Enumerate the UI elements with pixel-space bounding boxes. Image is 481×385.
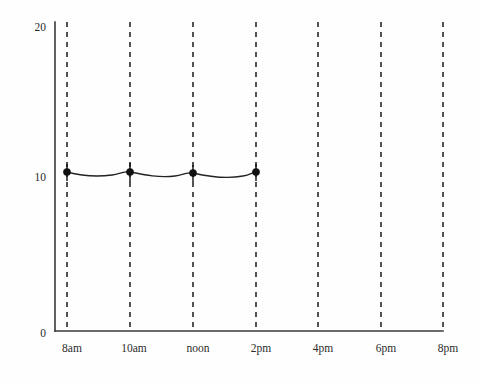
x-tick-label-4pm: 4pm: [313, 342, 334, 355]
y-tick-label-20: 20: [35, 21, 47, 33]
x-tick-label-noon: noon: [187, 342, 210, 354]
data-marker-8am: [63, 168, 70, 175]
line-chart-plot: 20 10 0 8am 10am noon 2pm 4pm 6pm 8pm: [0, 0, 481, 385]
data-marker-2pm: [252, 168, 259, 175]
x-tick-label-2pm: 2pm: [251, 342, 272, 355]
y-tick-label-0: 0: [40, 327, 46, 339]
x-tick-label-6pm: 6pm: [376, 342, 397, 355]
plot-background: [0, 0, 481, 385]
x-tick-label-10am: 10am: [121, 342, 147, 354]
data-marker-10am: [126, 168, 133, 175]
y-tick-label-10: 10: [35, 171, 47, 183]
x-tick-label-8am: 8am: [62, 342, 82, 354]
chart-container: 20 10 0 8am 10am noon 2pm 4pm 6pm 8pm: [0, 0, 481, 385]
data-marker-noon: [189, 169, 196, 176]
x-tick-label-8pm: 8pm: [438, 342, 459, 355]
